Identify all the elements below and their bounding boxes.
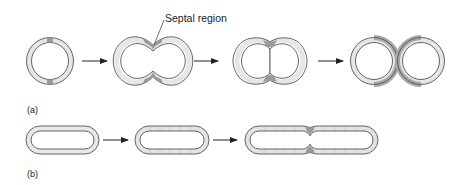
panel-b-label: (b) (27, 169, 38, 179)
daughter-cell-right (397, 38, 444, 85)
panel-a: Septal region (a) (27, 12, 445, 115)
coccus-stage-3 (233, 38, 307, 84)
coccus-stage-1 (27, 38, 74, 85)
rod-stage-3 (245, 126, 378, 154)
coccus-stage-2 (113, 37, 193, 85)
cell-division-diagram: Septal region (a) (0, 0, 469, 185)
panel-b: (b) (26, 126, 378, 179)
panel-a-label: (a) (27, 105, 38, 115)
rod-stage-2 (135, 126, 209, 154)
rod-stage-1 (26, 126, 99, 154)
septal-region-label: Septal region (165, 12, 227, 24)
daughter-cell-left (351, 38, 398, 85)
coccus-stage-4 (351, 38, 445, 85)
